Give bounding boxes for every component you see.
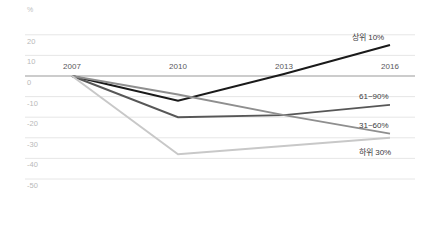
x-tick-label-2007: 2007 [52,62,92,71]
series-label-2: 31~60% [359,121,389,130]
line-chart: % 20100-10-20-30-40-50 2007201020132016 … [0,0,429,237]
y-axis-unit-label: % [27,6,33,13]
series-label-3: 하위 30% [359,146,391,157]
y-tick-label: -50 [27,181,38,190]
y-tick-label: -30 [27,140,38,149]
x-tick-label-2010: 2010 [158,62,198,71]
y-tick-label: 10 [27,57,36,66]
series-label-1: 61~90% [359,92,389,101]
y-tick-label: -20 [27,119,38,128]
series-line-2 [72,76,390,134]
y-tick-label: -10 [27,99,38,108]
y-tick-label: 20 [27,37,36,46]
y-tick-label: 0 [27,78,31,87]
x-tick-label-2013: 2013 [264,62,304,71]
y-tick-label: -40 [27,160,38,169]
series-line-0 [72,45,390,101]
series-label-0: 상위 10% [352,31,384,42]
x-tick-label-2016: 2016 [370,62,410,71]
